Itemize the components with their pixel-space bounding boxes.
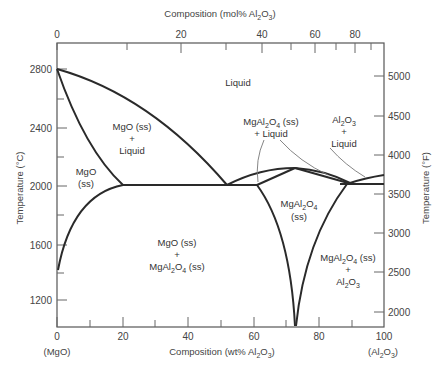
bottom-axis-ticks <box>57 317 352 327</box>
region-spinel-ss-2: (ss) <box>291 211 307 222</box>
bottom-tick-0: 0 <box>54 331 60 342</box>
region-spinel-al2o3-3: Al2O3 <box>336 276 360 289</box>
bottom-end-label-mgo: (MgO) <box>44 346 71 357</box>
top-axis-labels: 0 20 40 60 80 <box>54 29 361 40</box>
left-axis-labels: 2800 2400 2000 1600 1200 <box>30 64 53 306</box>
top-tick-0: 0 <box>54 29 60 40</box>
bottom-tick-40: 40 <box>182 331 194 342</box>
phase-boundaries <box>57 69 384 326</box>
bottom-end-label-al2o3: (Al2O3) <box>368 346 398 359</box>
solvus-mgo <box>58 185 123 270</box>
bottom-axis-title: Composition (wt% Al2O3) <box>169 346 275 359</box>
top-tick-80: 80 <box>349 29 361 40</box>
left-tick-2800: 2800 <box>30 64 53 75</box>
region-spinel-liquid-2: + Liquid <box>254 128 288 139</box>
right-tick-2000: 2000 <box>388 307 411 318</box>
left-axis-title: Temperature (°C) <box>14 152 25 225</box>
right-axis-ticks <box>374 76 384 312</box>
left-tick-1200: 1200 <box>30 295 53 306</box>
region-mgo-spinel-2: + <box>174 249 180 260</box>
right-tick-2500: 2500 <box>388 267 411 278</box>
region-mgo-spinel-1: MgO (ss) <box>157 237 196 248</box>
solidus-spinel-left <box>257 168 295 185</box>
top-tick-60: 60 <box>309 29 321 40</box>
solidus-spinel-right <box>295 168 348 183</box>
bottom-tick-100: 100 <box>376 331 393 342</box>
region-mgo-ss-2: (ss) <box>78 178 94 189</box>
right-tick-4500: 4500 <box>388 111 411 122</box>
top-tick-40: 40 <box>256 29 268 40</box>
region-mgo-ss-liquid-1: MgO (ss) <box>112 121 151 132</box>
region-spinel-ss-1: MgAl2O4 <box>281 198 318 211</box>
region-mgo-ss-liquid-2: + <box>129 133 135 144</box>
region-mgo-spinel-3: MgAl2O4 (ss) <box>149 261 204 274</box>
top-axis-title: Composition (mol% Al2O3) <box>164 8 275 21</box>
bottom-tick-20: 20 <box>117 331 129 342</box>
right-axis-title: Temperature (°F) <box>420 152 431 224</box>
pointer-spinel-liquid-left <box>257 140 264 182</box>
right-tick-5000: 5000 <box>388 71 411 82</box>
region-liquid: Liquid <box>225 77 250 88</box>
region-spinel-al2o3-2: + <box>345 264 351 275</box>
left-tick-2000: 2000 <box>30 181 53 192</box>
right-tick-3500: 3500 <box>388 189 411 200</box>
right-tick-4000: 4000 <box>388 150 411 161</box>
top-axis-ticks <box>57 43 371 53</box>
bottom-tick-60: 60 <box>248 331 260 342</box>
bottom-tick-80: 80 <box>313 331 325 342</box>
phase-diagram: 0 20 40 60 80 Composition (mol% Al2O3) 0… <box>0 0 438 371</box>
right-tick-3000: 3000 <box>388 228 411 239</box>
top-tick-20: 20 <box>175 29 187 40</box>
left-tick-2400: 2400 <box>30 123 53 134</box>
diagram-canvas: 0 20 40 60 80 Composition (mol% Al2O3) 0… <box>0 0 438 371</box>
left-tick-1600: 1600 <box>30 240 53 251</box>
region-al2o3-liquid-3: Liquid <box>331 138 356 149</box>
region-mgo-ss-1: MgO <box>76 166 97 177</box>
right-axis-labels: 5000 4500 4000 3500 3000 2500 2000 <box>388 71 411 318</box>
region-al2o3-liquid-2: + <box>341 126 347 137</box>
bottom-axis-labels: 0 20 40 60 80 100 <box>54 331 393 342</box>
region-mgo-ss-liquid-3: Liquid <box>119 145 144 156</box>
liquidus-al2o3 <box>350 175 384 183</box>
pointer-al2o3-liquid <box>330 148 365 177</box>
